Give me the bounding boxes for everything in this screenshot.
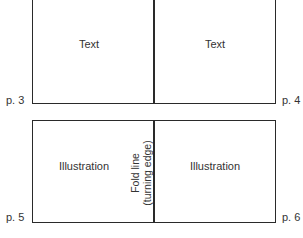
fold-line-label: Fold line <box>129 140 141 205</box>
top-right-panel-label: Text <box>205 38 225 50</box>
page-number-6: p. 6 <box>282 211 300 223</box>
top-left-panel-label: Text <box>79 38 99 50</box>
top-spread-fold-line <box>153 0 155 104</box>
fold-line-annotation: Fold line (turning edge) <box>129 140 153 205</box>
bottom-right-panel-label: Illustration <box>190 160 240 172</box>
page-number-5: p. 5 <box>6 211 24 223</box>
bottom-left-panel-label: Illustration <box>59 160 109 172</box>
page-number-4: p. 4 <box>282 94 300 106</box>
bottom-spread-fold-line <box>153 120 155 223</box>
turning-edge-label: (turning edge) <box>141 140 153 205</box>
page-number-3: p. 3 <box>6 94 24 106</box>
